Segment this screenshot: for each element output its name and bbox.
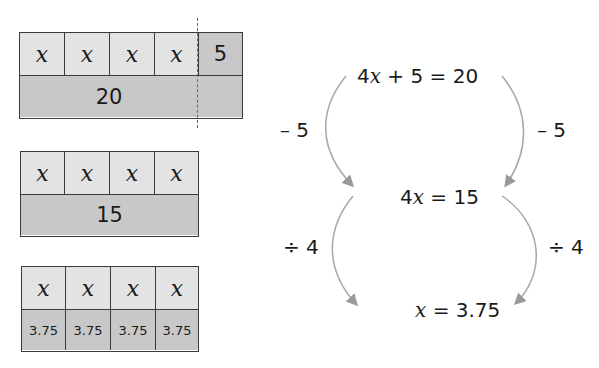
curved-arrows <box>0 0 599 368</box>
arrow-right-1 <box>502 76 524 185</box>
operation-right-divide: ÷ 4 <box>548 235 584 259</box>
variable: x <box>415 298 426 322</box>
coefficient: 4 <box>357 64 370 88</box>
operation-left-subtract: – 5 <box>280 118 309 142</box>
equation-rest: + 5 = 20 <box>381 64 478 88</box>
equation-step-2: 4x = 15 <box>400 185 479 209</box>
operation-left-divide: ÷ 4 <box>283 235 319 259</box>
arrow-left-1 <box>326 76 352 185</box>
variable: x <box>413 185 424 209</box>
equation-step-3: x = 3.75 <box>415 298 500 322</box>
arrow-right-2 <box>502 196 536 303</box>
arrow-left-2 <box>332 196 356 304</box>
equation-rest: = 3.75 <box>426 298 500 322</box>
equation-rest: = 15 <box>424 185 479 209</box>
equation-step-1: 4x + 5 = 20 <box>357 64 478 88</box>
variable: x <box>370 64 381 88</box>
coefficient: 4 <box>400 185 413 209</box>
operation-right-subtract: – 5 <box>537 118 566 142</box>
